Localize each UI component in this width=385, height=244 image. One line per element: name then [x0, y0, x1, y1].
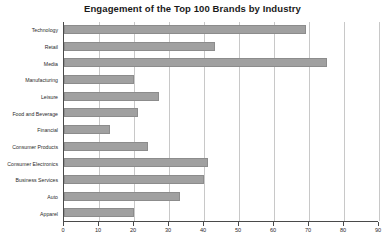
y-label-media: Media: [0, 55, 61, 72]
bar-financial[interactable]: [64, 125, 110, 134]
bar-business-services[interactable]: [64, 175, 204, 184]
y-label-business-services: Business Services: [0, 172, 61, 189]
bar-row: [64, 122, 378, 139]
x-tick-label: 30: [165, 227, 171, 233]
bar-row: [64, 172, 378, 189]
x-tick-label: 40: [200, 227, 206, 233]
bar-row: [64, 105, 378, 122]
x-tick: [168, 222, 169, 226]
y-label-food-and-beverage: Food and Beverage: [0, 105, 61, 122]
bar-food-and-beverage[interactable]: [64, 108, 138, 117]
bar-apparel[interactable]: [64, 208, 134, 217]
bar-row: [64, 72, 378, 89]
x-tick-label: 20: [130, 227, 136, 233]
x-tick-label: 80: [340, 227, 346, 233]
y-label-consumer-products: Consumer Products: [0, 139, 61, 156]
bar-retail[interactable]: [64, 42, 215, 51]
bar-leisure[interactable]: [64, 92, 159, 101]
bar-media[interactable]: [64, 58, 327, 67]
x-tick: [343, 222, 344, 226]
bar-row: [64, 89, 378, 106]
x-tick-label: 50: [235, 227, 241, 233]
bar-row: [64, 39, 378, 56]
x-axis-tick-labels: 0102030405060708090: [63, 227, 378, 239]
bar-manufacturing[interactable]: [64, 75, 134, 84]
x-tick: [378, 222, 379, 226]
x-tick: [133, 222, 134, 226]
x-tick: [308, 222, 309, 226]
chart-title: Engagement of the Top 100 Brands by Indu…: [0, 3, 385, 14]
bar-consumer-products[interactable]: [64, 142, 148, 151]
x-tick-label: 90: [375, 227, 381, 233]
bar-row: [64, 189, 378, 206]
x-tick: [203, 222, 204, 226]
y-label-leisure: Leisure: [0, 89, 61, 106]
y-label-consumer-electronics: Consumer Electronics: [0, 155, 61, 172]
y-label-technology: Technology: [0, 22, 61, 39]
x-tick-label: 0: [61, 227, 64, 233]
gridline: [379, 22, 380, 221]
y-axis-category-labels: TechnologyRetailMediaManufacturingLeisur…: [0, 22, 61, 222]
bar-row: [64, 55, 378, 72]
bar-row: [64, 205, 378, 222]
y-label-apparel: Apparel: [0, 205, 61, 222]
chart-container: Engagement of the Top 100 Brands by Indu…: [0, 0, 385, 244]
x-tick-label: 10: [95, 227, 101, 233]
bar-consumer-electronics[interactable]: [64, 158, 208, 167]
bar-auto[interactable]: [64, 192, 180, 201]
y-label-auto: Auto: [0, 189, 61, 206]
y-label-financial: Financial: [0, 122, 61, 139]
y-label-retail: Retail: [0, 39, 61, 56]
x-tick-label: 60: [270, 227, 276, 233]
bar-technology[interactable]: [64, 25, 306, 34]
plot-area: [63, 22, 378, 222]
x-tick-label: 70: [305, 227, 311, 233]
bar-series: [64, 22, 378, 221]
x-tick: [238, 222, 239, 226]
bar-row: [64, 22, 378, 39]
bar-row: [64, 139, 378, 156]
x-tick: [63, 222, 64, 226]
bar-row: [64, 155, 378, 172]
x-tick: [273, 222, 274, 226]
y-label-manufacturing: Manufacturing: [0, 72, 61, 89]
x-tick: [98, 222, 99, 226]
